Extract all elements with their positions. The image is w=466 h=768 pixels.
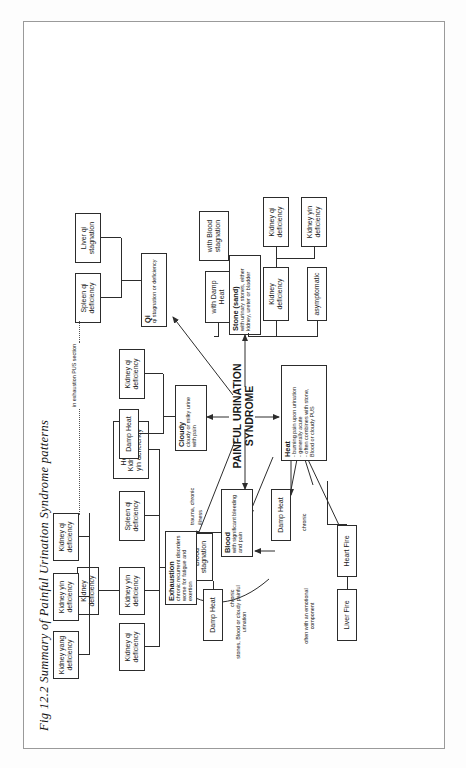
dotted-link-exhaustion-pus-2 (79, 321, 80, 343)
dotted-link-exhaustion-pus (79, 409, 80, 515)
node-damp-heat-blood[interactable]: Damp Heat (203, 589, 223, 641)
node-heart-fire[interactable]: Heart Fire (337, 525, 357, 577)
node-kidney-qi-stone-label: Kidney qi deficiency (268, 200, 283, 244)
diagram-canvas: Fig 12.2 Summary of Painful Urination Sy… (23, 21, 443, 747)
qi-riser (121, 280, 141, 281)
node-damp-heat-cloudy[interactable]: Damp Heat (119, 409, 139, 459)
node-qi-sub1: qi stagnation or deficiency (152, 256, 158, 323)
qi-sub-a (218, 323, 219, 337)
node-stone[interactable]: Stone (sand) with urinary stones, either… (229, 255, 261, 335)
node-kidney-deficiency-stone-label: Kidney deficiency (268, 270, 283, 318)
qi-drop-b (101, 237, 121, 238)
node-damp-heat-blood-label: Damp Heat (209, 597, 217, 632)
stone-to-asym (317, 321, 318, 337)
note-emotional: often with an emotional component (303, 581, 315, 651)
node-stone-sub2: kidney, ureter or bladder (246, 258, 252, 331)
node-with-blood-stagnation[interactable]: with Blood stagnation (199, 211, 229, 261)
qi-sub-b (214, 336, 218, 337)
center-line-2: SYNDROME (243, 343, 255, 489)
node-spleen-qi-exh[interactable]: Spleen qi deficiency (119, 491, 145, 541)
qi-bus (121, 238, 122, 298)
center-line-1: PAINFUL URINATION (231, 343, 243, 489)
kyang-riser (79, 654, 89, 655)
exh-drop-c (145, 515, 159, 516)
node-kidney-qi-2[interactable]: Kidney qi deficiency (53, 513, 79, 561)
node-kidney-qi-exh[interactable]: Kidney qi deficiency (119, 623, 145, 671)
exh-drop-b (145, 590, 159, 591)
node-kidney-yang[interactable]: Kidney yang deficiency (53, 631, 79, 679)
node-asymptomatic[interactable]: asymptomatic (307, 267, 327, 321)
node-liver-fire[interactable]: Liver Fire (337, 589, 357, 641)
node-heat-b4: Blood or cloudy PUS (310, 368, 316, 457)
node-kidney-yin-2[interactable]: Kidney yin deficiency (53, 573, 79, 621)
node-kidney-qi-2-label: Kidney qi deficiency (58, 516, 73, 558)
node-exhaustion[interactable]: Exhaustion chronic recurrent disorders w… (165, 531, 197, 605)
qi-drop-a (101, 297, 121, 298)
node-kidney-deficiency-exh[interactable]: Kidney deficiency (77, 567, 99, 615)
stone-stub (248, 333, 249, 337)
node-kidney-qi-cloudy[interactable]: Kidney qi deficiency (119, 349, 145, 399)
kd-bus (276, 258, 314, 259)
node-exhaustion-sub2: worse for fatigue and exertion (182, 534, 194, 601)
heat-cause-link-a (347, 577, 348, 589)
cloudy-bus (163, 374, 164, 434)
blood-link-a (213, 581, 214, 589)
cloudy-drop-a (139, 433, 163, 434)
node-liver-fire-label: Liver Fire (343, 600, 351, 629)
node-kidney-yin-stone-label: Kidney yin deficiency (306, 200, 321, 244)
kqi2-riser (79, 536, 89, 537)
kd-stub (276, 259, 277, 267)
exh-drop-d (149, 449, 159, 450)
node-blood-sub2: and pain (238, 492, 244, 553)
heat-cause-link-b (327, 524, 347, 525)
node-spleen-qi-exh-label: Spleen qi deficiency (124, 494, 139, 538)
node-with-blood-stagnation-label: with Blood stagnation (206, 214, 221, 258)
node-liver-qi-stagnation-label: Liver qi stagnation (80, 216, 95, 260)
kd-to-kyin (314, 247, 315, 259)
note-trauma-2: illness (197, 479, 203, 525)
node-liver-qi-stagnation[interactable]: Liver qi stagnation (75, 213, 101, 263)
kd-to-kqi (276, 247, 277, 259)
node-with-damp-heat[interactable]: with Damp Heat (205, 271, 231, 323)
node-qi[interactable]: Qi qi stagnation or deficiency (141, 253, 167, 327)
center-node: PAINFUL URINATION SYNDROME (231, 343, 255, 489)
node-kidney-deficiency-stone[interactable]: Kidney deficiency (263, 267, 289, 321)
node-spleen-qi-qi-label: Spleen qi deficiency (80, 276, 95, 320)
kidney-def-bus (89, 513, 90, 655)
stone-to-kd (276, 321, 277, 337)
kyin2-riser (79, 596, 89, 597)
note-trauma-1: trauma, chronic (189, 479, 195, 525)
node-cloudy-sub2: with pain (192, 388, 198, 447)
node-damp-heat-heat[interactable]: Damp Heat (271, 489, 291, 541)
node-damp-heat-cloudy-label: Damp Heat (125, 416, 133, 451)
node-kidney-qi-cloudy-label: Kidney qi deficiency (124, 352, 139, 396)
node-kidney-qi-stone[interactable]: Kidney qi deficiency (263, 197, 289, 247)
node-kidney-yin-2-label: Kidney yin deficiency (58, 576, 73, 618)
node-heat[interactable]: Heat - burning pain upon urination - gen… (281, 365, 327, 461)
exh-drop-a (145, 646, 159, 647)
note-exhaustion-pus: in exhaustion PUS section (71, 341, 77, 407)
node-cloudy[interactable]: Cloudy cloudy or milky urine with pain (175, 385, 207, 451)
node-with-damp-heat-label: with Damp Heat (210, 274, 225, 320)
edge-label-chronic-heat: chronic (301, 514, 307, 531)
node-kidney-deficiency-exh-label: Kidney deficiency (80, 570, 95, 612)
stone-bus (248, 336, 317, 337)
node-spleen-qi-qi[interactable]: Spleen qi deficiency (75, 273, 101, 323)
node-heart-fire-label: Heart Fire (343, 535, 351, 566)
blood-link-b (200, 532, 221, 533)
kidney-def-drop (99, 590, 119, 591)
node-kidney-yin-exh[interactable]: Kidney yin deficiency (119, 567, 145, 615)
note-stones: stones, Blood or cloudy painful urinatio… (235, 583, 247, 661)
cloudy-riser (163, 416, 175, 417)
figure-rotation-wrapper: Fig 12.2 Summary of Painful Urination Sy… (23, 21, 443, 747)
node-kidney-yin-stone[interactable]: Kidney yin deficiency (301, 197, 327, 247)
page-root: Fig 12.2 Summary of Painful Urination Sy… (0, 0, 466, 768)
exh-bus (159, 449, 160, 647)
node-kidney-yin-exh-label: Kidney yin deficiency (124, 570, 139, 612)
cloudy-drop-b (145, 373, 163, 374)
node-damp-heat-heat-label: Damp Heat (277, 497, 285, 532)
node-blood[interactable]: Blood with significant bleeding and pain (221, 489, 253, 557)
node-kidney-yang-label: Kidney yang deficiency (58, 634, 73, 676)
heat-cause-link-c (327, 481, 328, 525)
exh-riser (159, 567, 165, 568)
